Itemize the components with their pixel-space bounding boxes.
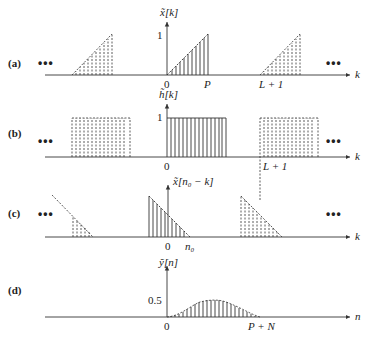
panel-b-x-axis-label: k: [355, 150, 360, 162]
panel-c-x-tick-n0: n₀: [185, 240, 194, 252]
panel-b-y-tick-1: 1: [157, 111, 163, 123]
panel-d-plot: [45, 266, 350, 317]
panel-a-x-axis-label: k: [355, 68, 360, 80]
panel-d-y-tick-05: 0.5: [148, 294, 162, 306]
panel-a-ellipsis-left: •••: [38, 56, 54, 70]
panel-a-ellipsis-right: •••: [326, 56, 342, 70]
panel-a-center-ramp: [167, 34, 208, 75]
panel-b-left-rect: [72, 118, 130, 157]
panel-c-label: (c): [8, 207, 20, 219]
panel-d-label: (d): [8, 284, 21, 296]
panel-b-y-axis-label: h̃[k]: [159, 88, 178, 100]
panel-a-y-axis-label: x̃[k]: [160, 6, 178, 18]
panel-d-envelope: [167, 300, 260, 317]
panel-a-plot: [45, 22, 350, 75]
panel-b-ellipsis-left: •••: [38, 134, 54, 148]
panel-a-x-tick-p: P: [204, 78, 211, 90]
panel-d-x-axis-label: n: [355, 310, 361, 322]
panel-c-y-axis-label: x̃[n₀ − k]: [173, 175, 214, 187]
panel-c-right-ramp: [241, 196, 282, 237]
panel-d-x-tick-pn: P + N: [248, 320, 275, 332]
panel-a-left-ramp: [72, 34, 112, 75]
panel-b-center-rect: [167, 118, 226, 157]
panel-b-right-rect: [260, 118, 318, 200]
panel-d-x-tick-0: 0: [164, 320, 170, 332]
panel-d-stems: [171, 300, 255, 317]
panel-c-ellipsis-left: •••: [38, 207, 54, 221]
panel-c-plot: [45, 185, 350, 237]
figure-canvas: [0, 0, 374, 343]
panel-c-center-ramp: [149, 196, 190, 237]
panel-b-x-tick-0: 0: [164, 160, 170, 172]
panel-b-x-tick-l1: L + 1: [263, 160, 287, 172]
panel-a-label: (a): [8, 57, 21, 69]
panel-a-x-tick-l1: L + 1: [259, 78, 283, 90]
panel-a-right-ramp: [260, 34, 300, 75]
panel-d-y-axis-label: ỹ[n]: [159, 256, 178, 268]
panel-c-ellipsis-right: •••: [326, 207, 342, 221]
panel-c-x-tick-0: 0: [165, 240, 171, 252]
panel-b-label: (b): [8, 127, 21, 139]
panel-b-ellipsis-right: •••: [326, 134, 342, 148]
panel-c-left-ramp: [52, 195, 93, 237]
panel-c-x-axis-label: k: [355, 230, 360, 242]
panel-a-y-tick-1: 1: [157, 29, 163, 41]
